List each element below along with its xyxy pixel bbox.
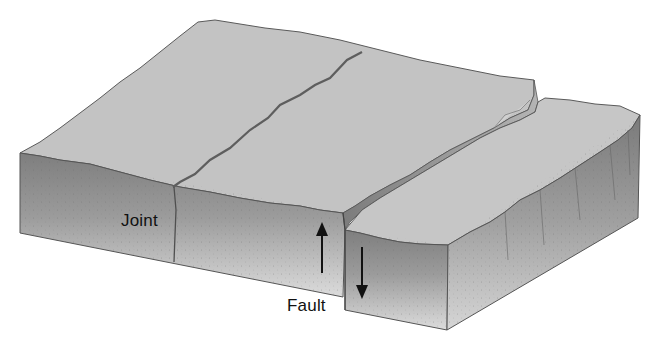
joint-label: Joint <box>121 211 158 231</box>
fault-joint-block-diagram <box>0 0 654 339</box>
fault-label: Fault <box>287 296 326 316</box>
